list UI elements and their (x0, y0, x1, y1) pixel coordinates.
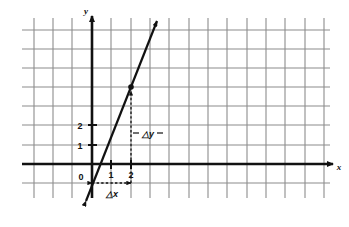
x-tick-label-2: 2 (128, 170, 133, 180)
delta-y-label: △y (141, 129, 155, 139)
delta-x-label: △x (105, 189, 119, 199)
y-axis-label: y (83, 6, 89, 16)
y-tick-label-1: 1 (77, 141, 82, 151)
x-tick-label-1: 1 (108, 170, 113, 180)
coordinate-graph-figure: y x 0 2 1 1 2 △y △x (0, 0, 349, 227)
y-tick-label-2: 2 (77, 121, 82, 131)
point-marker (128, 84, 134, 90)
tick-marks (88, 125, 131, 169)
axes (22, 16, 333, 198)
x-axis-label: x (336, 162, 342, 172)
origin-label: 0 (78, 172, 83, 182)
grid-lines (22, 18, 330, 198)
plotted-line (86, 21, 157, 201)
graph-svg: y x 0 2 1 1 2 △y △x (0, 0, 349, 227)
